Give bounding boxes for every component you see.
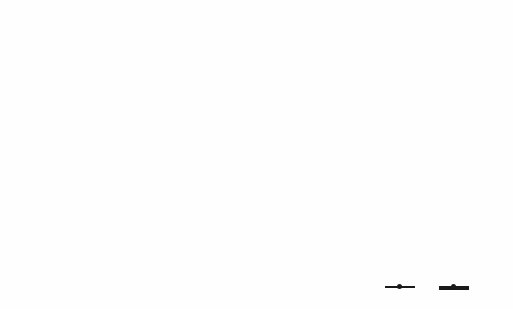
plot-area xyxy=(0,0,513,309)
chart-container xyxy=(0,0,513,309)
legend-swatch-1989 xyxy=(439,283,469,291)
legend-swatch-1926 xyxy=(385,283,415,291)
legend-item-1989 xyxy=(434,283,474,290)
chart-legend xyxy=(380,283,490,307)
legend-item-1926 xyxy=(380,283,420,290)
